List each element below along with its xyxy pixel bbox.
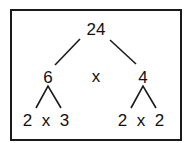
edge-6-to-2x3	[36, 86, 61, 108]
node-4: 4	[138, 69, 147, 86]
edge-24-to-4	[110, 40, 136, 64]
multiply-operator: x	[92, 68, 101, 85]
node-2x2: 2 x 2	[118, 112, 164, 129]
root-node-24: 24	[87, 21, 106, 38]
node-2x3: 2 x 3	[23, 112, 69, 129]
edge-24-to-6	[55, 39, 80, 65]
node-6: 6	[43, 69, 52, 86]
edge-4-to-2x2	[131, 86, 156, 108]
